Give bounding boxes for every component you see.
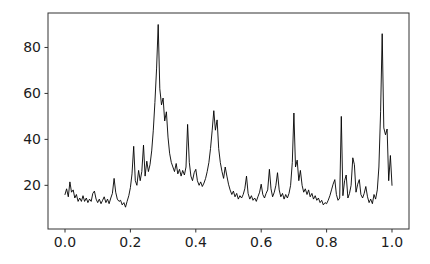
x-axis-tick-label: 0.6	[250, 234, 272, 250]
x-axis-tick-label: 1.0	[381, 234, 403, 250]
y-axis-tick-label: 20	[23, 177, 41, 193]
figure: 0.00.20.40.60.81.020406080	[0, 0, 430, 264]
y-axis-tick-label: 80	[23, 39, 41, 55]
figure-background	[0, 0, 430, 264]
x-axis-tick-label: 0.8	[315, 234, 337, 250]
x-axis-tick-label: 0.0	[54, 234, 76, 250]
y-axis-tick-label: 60	[23, 85, 41, 101]
x-axis-tick-label: 0.4	[185, 234, 207, 250]
x-axis-tick-label: 0.2	[119, 234, 141, 250]
y-axis-tick-label: 40	[23, 131, 41, 147]
line-chart: 0.00.20.40.60.81.020406080	[0, 0, 430, 264]
